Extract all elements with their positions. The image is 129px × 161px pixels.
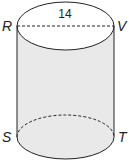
cylinder-diagram: 14 R V S T	[0, 0, 129, 161]
point-r-label: R	[2, 18, 12, 34]
point-t-label: T	[118, 129, 128, 145]
dimension-label: 14	[58, 7, 72, 21]
point-v-label: V	[117, 18, 128, 34]
point-s-label: S	[2, 129, 12, 145]
